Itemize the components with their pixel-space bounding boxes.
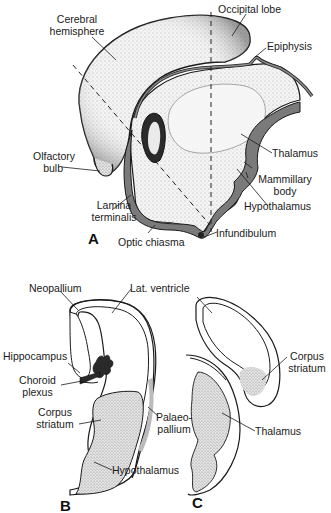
label-corpus-striatum-b: Corpus striatum	[30, 406, 80, 430]
label-text: Palaeo-	[154, 411, 194, 423]
label-text: terminalis	[86, 211, 142, 223]
corpus-striatum-b-shape	[76, 391, 143, 494]
label-choroid-plexus: Choroid plexus	[15, 374, 60, 398]
label-hypothalamus-a: Hypothalamus	[244, 200, 311, 212]
label-text: Choroid	[15, 374, 60, 386]
label-cerebral-hemisphere: Cerebral hemisphere	[47, 13, 107, 37]
label-text: Cerebral	[47, 13, 107, 25]
panel-letter-c: C	[192, 494, 203, 511]
label-text: striatum	[30, 418, 80, 430]
label-epiphysis: Epiphysis	[267, 40, 312, 52]
label-text: hemisphere	[47, 25, 107, 37]
panel-c-coronal-section	[186, 297, 287, 495]
label-hypothalamus-b: Hypothalamus	[112, 464, 179, 476]
thalamus-c-shape	[191, 372, 230, 492]
label-mammillary-body: Mammillary body	[249, 173, 321, 197]
label-thalamus-c: Thalamus	[255, 425, 301, 437]
label-text: pallium	[154, 423, 194, 435]
label-infundibulum: Infundibulum	[216, 227, 276, 239]
label-occipital-lobe: Occipital lobe	[218, 3, 281, 15]
label-text: Lamina	[86, 199, 142, 211]
label-text: Corpus	[284, 350, 330, 362]
label-text: bulb	[20, 162, 75, 174]
label-text: striatum	[284, 362, 330, 374]
label-palaeopallium: Palaeo- pallium	[154, 411, 194, 435]
label-olfactory-bulb: Olfactory bulb	[20, 150, 75, 174]
label-text: Olfactory	[20, 150, 75, 162]
label-text: Corpus	[30, 406, 80, 418]
label-text: Mammillary	[249, 173, 321, 185]
panel-letter-a: A	[88, 230, 99, 247]
label-hippocampus: Hippocampus	[3, 350, 67, 362]
label-optic-chiasma: Optic chiasma	[118, 236, 185, 248]
label-text: body	[249, 185, 321, 197]
hippocampus-shape	[70, 312, 90, 378]
label-corpus-striatum-c: Corpus striatum	[284, 350, 330, 374]
label-neopallium: Neopallium	[29, 282, 82, 294]
label-text: plexus	[15, 386, 60, 398]
label-thalamus-a: Thalamus	[272, 147, 318, 159]
panel-letter-b: B	[60, 497, 71, 513]
label-lat-ventricle: Lat. ventricle	[130, 282, 190, 294]
label-lamina-terminalis: Lamina terminalis	[86, 199, 142, 223]
